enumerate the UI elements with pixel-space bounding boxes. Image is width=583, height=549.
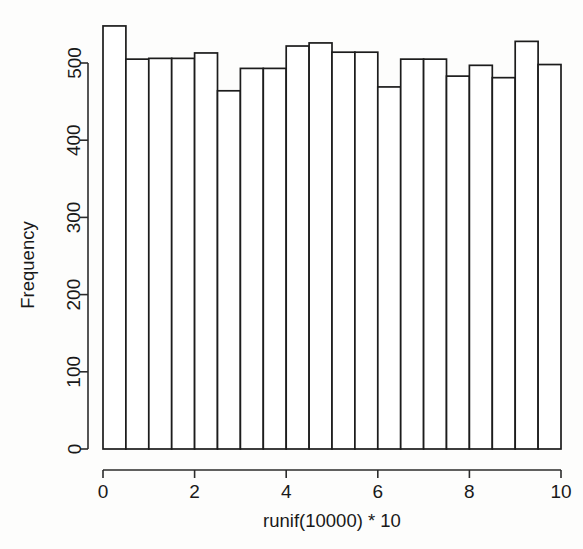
x-axis-tick-label: 6: [373, 481, 384, 502]
histogram-bar: [195, 53, 218, 449]
histogram-bar: [447, 76, 470, 449]
histogram-bar: [126, 59, 149, 449]
x-axis: 0246810: [98, 470, 572, 502]
y-axis-tick-label: 300: [64, 202, 85, 234]
histogram-bars: [103, 26, 561, 449]
y-axis-tick-label: 200: [64, 279, 85, 311]
x-axis-tick-label: 8: [464, 481, 475, 502]
histogram-bar: [424, 59, 447, 449]
histogram-bar: [286, 46, 309, 449]
histogram-bar: [240, 68, 263, 449]
y-axis-tick-label: 400: [64, 124, 85, 156]
histogram-bar: [218, 91, 241, 449]
histogram-bar: [263, 68, 286, 449]
histogram-figure: 0100200300400500 0246810 Frequency runif…: [0, 0, 583, 549]
histogram-bar: [355, 52, 378, 449]
x-axis-tick-label: 10: [550, 481, 571, 502]
histogram-bar: [332, 52, 355, 449]
histogram-bar: [378, 87, 401, 449]
histogram-bar: [401, 59, 424, 449]
histogram-bar: [515, 41, 538, 449]
histogram-bar: [149, 58, 172, 449]
histogram-bar: [492, 78, 515, 449]
histogram-bar: [469, 65, 492, 449]
chart-canvas: 0100200300400500 0246810 Frequency runif…: [0, 0, 583, 549]
y-axis-title: Frequency: [17, 221, 38, 309]
x-axis-tick-label: 2: [189, 481, 200, 502]
y-axis-tick-label: 0: [64, 444, 85, 455]
histogram-bar: [309, 43, 332, 449]
histogram-bar: [172, 58, 195, 449]
x-axis-title: runif(10000) * 10: [263, 510, 401, 531]
y-axis-tick-label: 100: [64, 356, 85, 388]
y-axis: 0100200300400500: [64, 47, 89, 454]
y-axis-tick-label: 500: [64, 47, 85, 79]
x-axis-tick-label: 4: [281, 481, 292, 502]
histogram-bar: [538, 65, 561, 449]
histogram-bar: [103, 26, 126, 449]
x-axis-tick-label: 0: [98, 481, 109, 502]
